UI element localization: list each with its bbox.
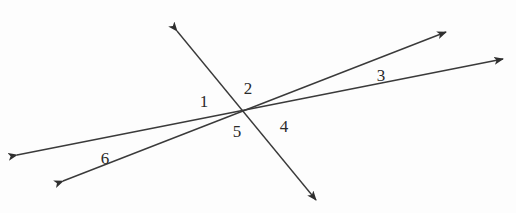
angle-label-5: 5 (233, 123, 242, 140)
angle-label-2: 2 (244, 80, 253, 97)
angle-label-4: 4 (280, 118, 289, 135)
angle-diagram: 1 2 3 4 5 6 (0, 0, 516, 213)
line-a (17, 59, 503, 155)
angle-label-6: 6 (101, 150, 110, 167)
angle-label-1: 1 (200, 93, 209, 110)
transversal-line (177, 31, 316, 200)
lines-svg (0, 0, 516, 213)
line-b (63, 32, 446, 181)
angle-label-3: 3 (377, 67, 386, 84)
